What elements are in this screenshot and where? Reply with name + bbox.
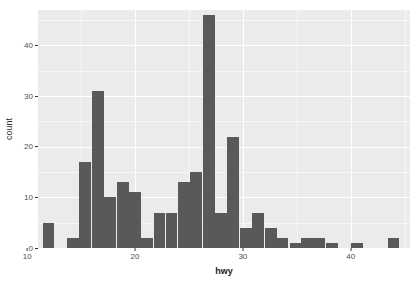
- y-axis-tick-label: 40: [24, 41, 33, 50]
- x-axis-tick-mark: [350, 248, 351, 251]
- histogram-bar: [154, 213, 166, 248]
- y-axis-tick: 10: [24, 192, 38, 202]
- gridline-vertical-minor: [405, 10, 406, 248]
- x-axis-title: hwy: [38, 266, 410, 276]
- x-axis-tick-mark: [242, 248, 243, 251]
- y-axis-tick: 30: [24, 91, 38, 101]
- histogram-bar: [277, 238, 289, 248]
- y-axis: 010203040: [14, 0, 38, 258]
- x-axis-tick: 20: [131, 248, 140, 261]
- histogram-bar: [166, 213, 178, 248]
- y-axis-tick-label: 10: [24, 193, 33, 202]
- histogram-bar: [43, 223, 55, 248]
- histogram-bar: [388, 238, 400, 248]
- x-axis-tick-label: 10: [23, 252, 32, 261]
- histogram-bar: [252, 213, 264, 248]
- y-axis-title-label: count: [4, 118, 14, 140]
- histogram-bar: [79, 162, 91, 248]
- y-axis-tick-label: 20: [24, 142, 33, 151]
- x-axis-tick: 40: [346, 248, 355, 261]
- gridline-vertical-minor: [297, 10, 298, 248]
- x-axis-tick-label: 20: [131, 252, 140, 261]
- histogram-bar: [141, 238, 153, 248]
- histogram-bar: [215, 213, 227, 248]
- x-axis: 10203040: [38, 248, 410, 264]
- x-axis-tick-label: 40: [346, 252, 355, 261]
- histogram-chart: count 010203040 10203040 hwy: [0, 0, 417, 288]
- gridline-horizontal-major: [38, 45, 410, 46]
- histogram-bar: [67, 238, 79, 248]
- gridline-horizontal-minor: [38, 20, 410, 21]
- histogram-bar: [301, 238, 313, 248]
- y-axis-tick: 20: [24, 142, 38, 152]
- x-axis-tick-mark: [27, 248, 28, 251]
- histogram-bar: [313, 238, 325, 248]
- histogram-bar: [129, 192, 141, 248]
- plot-panel: [38, 10, 410, 248]
- x-axis-tick: 30: [238, 248, 247, 261]
- histogram-bar: [203, 15, 215, 248]
- y-axis-tick-label: 30: [24, 92, 33, 101]
- x-axis-tick-mark: [135, 248, 136, 251]
- gridline-vertical-major: [351, 10, 352, 248]
- x-axis-tick: 10: [23, 248, 32, 261]
- histogram-bar: [178, 182, 190, 248]
- histogram-bar: [104, 197, 116, 248]
- x-axis-tick-label: 30: [238, 252, 247, 261]
- histogram-bar: [227, 137, 239, 248]
- histogram-bar: [265, 228, 277, 248]
- gridline-horizontal-minor: [38, 71, 410, 72]
- histogram-bar: [92, 91, 104, 248]
- histogram-bar: [117, 182, 129, 248]
- histogram-bar: [190, 172, 202, 248]
- histogram-bar: [240, 228, 252, 248]
- y-axis-tick: 40: [24, 40, 38, 50]
- gridline-vertical-major: [243, 10, 244, 248]
